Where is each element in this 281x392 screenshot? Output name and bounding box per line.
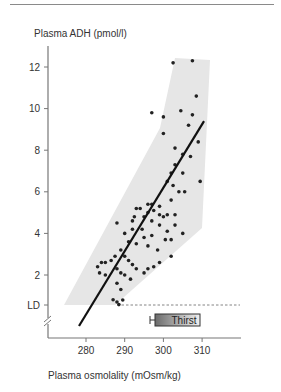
data-point	[135, 242, 139, 246]
data-point	[146, 244, 150, 248]
data-point	[115, 282, 119, 286]
scatter-plot: LD24681012 280290300310 Thirst	[0, 0, 281, 392]
data-point	[123, 232, 127, 236]
data-point	[169, 254, 173, 258]
data-point	[158, 213, 162, 217]
y-tick-label: 8	[34, 145, 40, 156]
data-point	[177, 190, 181, 194]
data-point	[198, 180, 202, 184]
data-point	[138, 207, 142, 211]
data-point	[196, 140, 200, 144]
data-point	[164, 238, 168, 242]
x-ticks: 280290300310	[78, 338, 211, 356]
x-tick-label: 300	[155, 345, 172, 356]
data-point	[113, 254, 117, 258]
data-point	[150, 219, 154, 223]
data-point	[189, 155, 193, 159]
data-point	[150, 234, 154, 238]
x-tick-label: 280	[78, 345, 95, 356]
data-point	[109, 259, 113, 263]
data-point	[162, 132, 166, 136]
data-point	[173, 223, 177, 227]
x-tick-label: 290	[116, 345, 133, 356]
data-point	[169, 238, 173, 242]
data-point	[187, 123, 191, 127]
data-point	[146, 267, 150, 271]
data-point	[133, 215, 137, 219]
data-point	[117, 303, 121, 307]
data-point	[162, 215, 166, 219]
data-point	[181, 232, 185, 236]
data-point	[123, 273, 127, 277]
data-point	[150, 111, 154, 115]
data-point	[142, 236, 146, 240]
data-point	[131, 219, 135, 223]
data-point	[156, 248, 160, 252]
data-point	[191, 113, 195, 117]
data-point	[131, 263, 135, 267]
y-tick-label: 6	[34, 186, 40, 197]
data-point	[169, 198, 173, 202]
data-point	[119, 288, 123, 292]
data-point	[165, 230, 169, 234]
data-point	[142, 271, 146, 275]
y-tick-label: 12	[29, 62, 41, 73]
data-point	[135, 207, 139, 211]
y-tick-label: 10	[29, 103, 41, 114]
data-point	[179, 109, 183, 113]
data-point	[181, 171, 185, 175]
data-point	[194, 94, 198, 98]
data-point	[162, 115, 166, 119]
data-point	[171, 61, 175, 65]
data-point	[173, 213, 177, 217]
data-point	[115, 221, 119, 225]
data-point	[152, 209, 156, 213]
x-tick-label: 310	[194, 345, 211, 356]
data-point	[152, 265, 156, 269]
data-point	[158, 261, 162, 265]
y-ticks: LD24681012	[27, 62, 48, 311]
data-point	[173, 146, 177, 150]
data-point	[119, 248, 123, 252]
y-tick-label: LD	[27, 300, 40, 311]
data-point	[98, 271, 102, 275]
thirst-bar: Thirst	[150, 314, 200, 326]
data-point	[96, 265, 100, 269]
data-point	[146, 202, 150, 206]
data-point	[100, 261, 104, 265]
data-point	[158, 223, 162, 227]
data-point	[158, 205, 162, 209]
data-point	[104, 261, 108, 265]
data-point	[183, 190, 187, 194]
data-point	[171, 184, 175, 188]
data-point	[165, 213, 169, 217]
y-tick-label: 2	[34, 270, 40, 281]
data-point	[131, 227, 135, 231]
data-point	[140, 227, 144, 231]
data-point	[104, 273, 108, 277]
data-point	[111, 298, 115, 302]
data-point	[119, 271, 123, 275]
data-point	[121, 298, 125, 302]
data-point	[135, 267, 139, 271]
data-point	[129, 277, 133, 281]
svg-text:Thirst: Thirst	[172, 315, 197, 326]
data-point	[191, 59, 195, 63]
y-tick-label: 4	[34, 228, 40, 239]
data-point	[127, 259, 131, 263]
